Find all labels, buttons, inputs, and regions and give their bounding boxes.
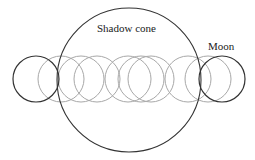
moon-circle [13,56,59,102]
moon-position-circle [118,56,164,102]
moon-position-circle [38,56,84,102]
moon-endpoints [13,56,245,102]
shadow-cone-label: Shadow cone [97,23,156,34]
moon-position-circle [165,56,211,102]
moon-label: Moon [208,41,234,52]
moon-path-positions [38,56,231,102]
moon-circle [199,56,245,102]
moon-position-circle [185,56,231,102]
